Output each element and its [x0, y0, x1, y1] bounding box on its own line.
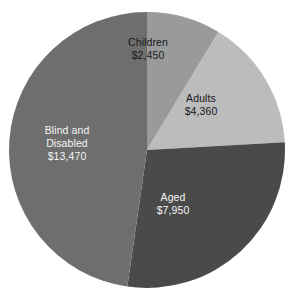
pie-chart: Children $2,450 Adults $4,360 Blind and …	[0, 0, 288, 299]
pie-slice-blind-and-disabled[interactable]	[9, 12, 147, 287]
pie-slice-aged[interactable]	[127, 142, 285, 288]
pie-chart-canvas	[0, 0, 288, 299]
pie-slices	[9, 12, 285, 288]
